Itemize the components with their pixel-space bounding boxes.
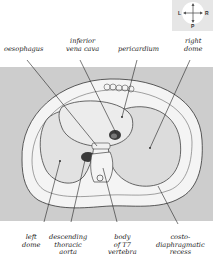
label-oesophagus: oesophagus [4,46,43,54]
label-costo-diaphragmatic-recess: costo- diaphragmatic recess [156,234,205,257]
label-right-dome: right dome [184,38,202,53]
thorax-cross-section-illustration [0,0,213,267]
t7-vertebra-shape [91,152,113,182]
label-body-of-t7-vertebra: body of T7 vertebra [108,234,137,257]
label-inferior-vena-cava: inferior vena cava [66,38,99,53]
label-left-dome: left dome [22,234,40,249]
oesophagus-shape [92,143,110,149]
label-descending-thoracic-aorta: descending thoracic aorta [49,234,87,257]
label-pericardium: pericardium [118,46,159,54]
